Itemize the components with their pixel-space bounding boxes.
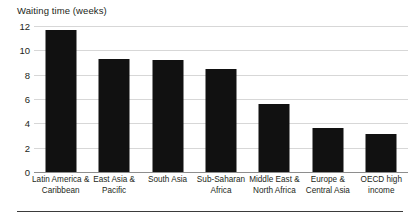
- x-axis: Latin America &CaribbeanEast Asia &Pacif…: [34, 175, 408, 205]
- x-tick-label-line: OECD high: [349, 175, 414, 186]
- x-tick-label-line: Pacific: [81, 186, 146, 197]
- y-tick-label-12: 12: [19, 21, 30, 32]
- x-tick-label-line: income: [349, 186, 414, 197]
- y-tick-label-4: 4: [25, 118, 30, 129]
- bar-slot: [34, 26, 87, 172]
- bar: [366, 134, 397, 172]
- chart-title: Waiting time (weeks): [17, 5, 107, 16]
- bar: [152, 60, 183, 172]
- bar-slot: [194, 26, 247, 172]
- y-tick-label-8: 8: [25, 69, 30, 80]
- bars-layer: [34, 26, 408, 172]
- gridline-0: [34, 172, 408, 173]
- bar-chart-figure: Waiting time (weeks) 024681012 Latin Ame…: [0, 0, 420, 219]
- bar-slot: [355, 26, 408, 172]
- bottom-divider: [17, 211, 403, 213]
- bar-slot: [87, 26, 140, 172]
- bar: [99, 59, 130, 172]
- bar: [205, 69, 236, 172]
- bar-slot: [248, 26, 301, 172]
- bar-slot: [301, 26, 354, 172]
- y-tick-label-6: 6: [25, 94, 30, 105]
- bar-slot: [141, 26, 194, 172]
- y-axis: 024681012: [0, 26, 30, 172]
- x-tick-label: OECD highincome: [349, 175, 414, 196]
- y-tick-label-2: 2: [25, 142, 30, 153]
- bar: [45, 30, 76, 172]
- bar: [259, 104, 290, 172]
- bar: [312, 128, 343, 172]
- y-tick-label-10: 10: [19, 45, 30, 56]
